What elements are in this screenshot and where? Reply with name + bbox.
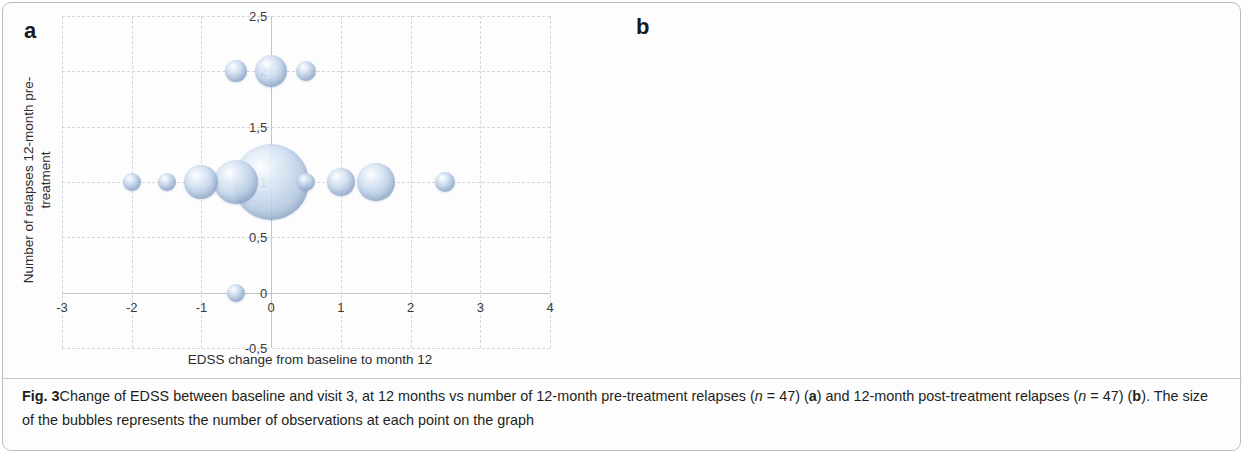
caption-n-italic-1: n xyxy=(755,388,763,404)
y-axis-title-a: Number of relapses 12-month pre- treatme… xyxy=(20,30,54,330)
gridline-horizontal xyxy=(62,127,550,128)
caption-n-value-2: = 47) ( xyxy=(1086,388,1132,404)
figure-caption: Fig. 3Change of EDSS between baseline an… xyxy=(22,384,1212,432)
data-bubble xyxy=(184,165,218,199)
y-axis-tick-label: 0 xyxy=(260,285,267,300)
x-axis-tick-label: -2 xyxy=(126,300,138,315)
y-axis-tick-label: 1,5 xyxy=(249,119,267,134)
x-axis-tick-label: -3 xyxy=(56,300,68,315)
x-axis-tick-label: 3 xyxy=(477,300,484,315)
data-bubble xyxy=(123,173,141,191)
x-axis-tick-label: -1 xyxy=(196,300,208,315)
chart-panel-a: a Number of relapses 12-month pre- treat… xyxy=(0,0,620,372)
caption-text-2: ) and 12-month post-treatment relapses ( xyxy=(817,388,1079,404)
data-bubble xyxy=(227,284,245,302)
data-bubble xyxy=(357,163,395,201)
gridline-horizontal xyxy=(62,237,550,238)
caption-text-1: Change of EDSS between baseline and visi… xyxy=(60,388,755,404)
y-axis-tick-label: 2,5 xyxy=(249,9,267,24)
caption-n-value-1: = 47) ( xyxy=(763,388,809,404)
y-axis-tick-label: 0,5 xyxy=(249,230,267,245)
x-axis-title-a: EDSS change from baseline to month 12 xyxy=(120,352,500,367)
x-axis-tick-label: 0 xyxy=(268,300,275,315)
panels-container: a Number of relapses 12-month pre- treat… xyxy=(0,0,1245,372)
data-bubble xyxy=(225,60,247,82)
data-bubble xyxy=(297,173,315,191)
x-axis-tick-label: 2 xyxy=(407,300,414,315)
figure-label: Fig. 3 xyxy=(22,388,60,404)
chart-panel-b: b Number of relapses 12-month post- trea… xyxy=(620,0,1245,372)
gridline-vertical xyxy=(550,16,551,348)
data-bubble xyxy=(296,61,316,81)
gridline-vertical xyxy=(411,16,412,348)
y-axis-title-a-line1: Number of relapses 12-month pre- xyxy=(21,77,36,283)
caption-divider xyxy=(3,378,1242,379)
gridline-horizontal xyxy=(62,16,550,17)
data-bubble xyxy=(158,173,176,191)
gridline-vertical xyxy=(62,16,63,348)
data-bubble xyxy=(255,55,287,87)
gridline-horizontal xyxy=(62,348,550,349)
caption-ref-b: b xyxy=(1132,388,1141,404)
gridline-horizontal xyxy=(62,293,550,294)
figure-root: a Number of relapses 12-month pre- treat… xyxy=(0,0,1245,456)
data-bubble xyxy=(214,160,258,204)
x-axis-tick-label: 4 xyxy=(546,300,553,315)
gridline-vertical xyxy=(480,16,481,348)
y-axis-title-a-line2: treatment xyxy=(37,30,54,330)
panel-letter-b: b xyxy=(636,14,649,40)
data-bubble xyxy=(327,168,355,196)
x-axis-tick-label: 1 xyxy=(337,300,344,315)
plot-area-a: -0,500,511,522,5-3-2-101234 xyxy=(62,16,550,348)
data-bubble xyxy=(435,172,455,192)
caption-ref-a: a xyxy=(809,388,817,404)
